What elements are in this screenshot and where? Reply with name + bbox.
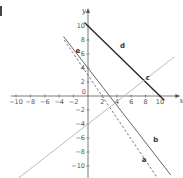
x-tick-label: −2	[69, 98, 79, 106]
y-tick-label: −10	[71, 162, 85, 170]
line-label-a: a	[142, 156, 147, 164]
y-arrow-icon	[86, 8, 90, 13]
origin-label: 0	[82, 88, 86, 96]
y-tick-label: −8	[75, 148, 85, 156]
x-tick-label: −4	[54, 98, 64, 106]
x-tick-label: 2	[100, 98, 104, 106]
x-tick-label: −10	[9, 98, 23, 106]
y-axis-label: y	[81, 7, 87, 15]
line-label-b: b	[153, 136, 158, 144]
y-tick-label: 8	[81, 36, 85, 44]
y-tick-label: 6	[81, 50, 85, 58]
x-axis-label: x	[179, 97, 183, 105]
y-tick-label: −2	[75, 106, 85, 114]
x-tick-label: −8	[26, 98, 36, 106]
line-graph: xy−10−8−6−4−2246810−10−8−6−4−22468100 dc…	[0, 0, 183, 178]
line-label-c: c	[146, 74, 150, 82]
x-tick-label: 6	[129, 98, 133, 106]
y-tick-label: 2	[81, 78, 85, 86]
y-tick-label: −6	[75, 134, 85, 142]
line-label-d: d	[120, 42, 125, 50]
line-c	[16, 57, 174, 178]
line-label-e: e	[76, 47, 81, 55]
x-tick-label: 8	[144, 98, 148, 106]
y-tick-label: 10	[77, 22, 85, 30]
line-d	[84, 23, 164, 101]
x-tick-label: −6	[40, 98, 50, 106]
